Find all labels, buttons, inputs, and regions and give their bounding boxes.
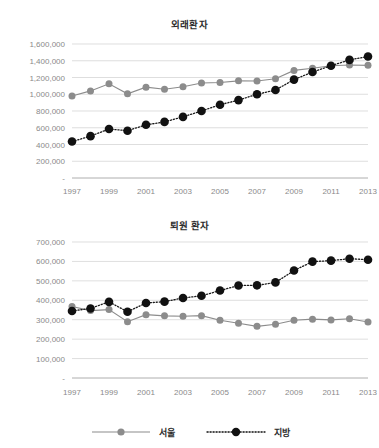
data-point-seoul — [254, 78, 261, 85]
legend-marker-local-icon — [205, 426, 267, 438]
data-point-local — [86, 304, 95, 313]
data-point-local — [197, 107, 206, 116]
data-point-seoul — [143, 311, 150, 318]
data-point-local — [105, 125, 114, 134]
x-tick-label: 2005 — [211, 187, 229, 196]
data-point-local — [160, 297, 169, 306]
legend-label-local: 지방 — [274, 426, 290, 439]
y-tick-label: 600,000 — [36, 124, 65, 133]
data-point-local — [234, 281, 243, 290]
x-tick-label: 2003 — [174, 388, 192, 397]
data-point-local — [308, 257, 317, 266]
data-point-seoul — [346, 315, 353, 322]
y-tick-label: - — [62, 174, 65, 183]
data-point-local — [216, 286, 225, 295]
y-tick-label: 400,000 — [36, 141, 65, 150]
data-point-seoul — [124, 90, 131, 97]
data-point-seoul — [328, 316, 335, 323]
x-tick-label: 2011 — [322, 187, 340, 196]
x-tick-label: 1997 — [63, 388, 81, 397]
legend-marker-seoul-icon — [90, 426, 152, 438]
y-tick-label: 500,000 — [36, 277, 65, 286]
x-tick-label: 2007 — [248, 388, 266, 397]
data-point-seoul — [217, 79, 224, 86]
y-tick-label: 200,000 — [36, 335, 65, 344]
data-point-local — [345, 56, 354, 65]
data-point-local — [364, 52, 373, 61]
data-point-seoul — [291, 67, 298, 74]
legend-label-seoul: 서울 — [159, 426, 175, 439]
y-tick-label: 400,000 — [36, 296, 65, 305]
data-point-seoul — [235, 77, 242, 84]
y-tick-label: 1,000,000 — [29, 90, 65, 99]
chart-1-plot: 1,600,0001,400,0001,200,0001,000,000800,… — [0, 0, 379, 212]
data-point-local — [123, 126, 132, 135]
data-point-local — [253, 281, 262, 290]
data-point-seoul — [124, 318, 131, 325]
y-tick-label: 700,000 — [36, 238, 65, 247]
data-point-local — [253, 90, 262, 99]
y-tick-label: 100,000 — [36, 355, 65, 364]
data-point-local — [216, 100, 225, 109]
y-tick-label: - — [62, 374, 65, 383]
data-point-local — [345, 254, 354, 263]
data-point-local — [234, 96, 243, 105]
data-point-seoul — [309, 316, 316, 323]
x-tick-label: 2009 — [285, 187, 303, 196]
y-tick-label: 600,000 — [36, 257, 65, 266]
data-point-seoul — [365, 319, 372, 326]
x-tick-label: 2005 — [211, 388, 229, 397]
data-point-seoul — [235, 320, 242, 327]
data-point-local — [123, 307, 132, 316]
data-point-local — [142, 121, 151, 130]
legend-entry-seoul[interactable]: 서울 — [90, 426, 175, 439]
x-tick-label: 2007 — [248, 187, 266, 196]
data-point-seoul — [161, 86, 168, 93]
data-point-seoul — [198, 79, 205, 86]
x-tick-label: 2013 — [359, 187, 377, 196]
legend-entry-local[interactable]: 지방 — [205, 426, 290, 439]
data-point-seoul — [143, 84, 150, 91]
data-point-seoul — [180, 313, 187, 320]
data-point-local — [290, 266, 299, 275]
chart-page: 외래환자 1,600,0001,400,0001,200,0001,000,00… — [0, 0, 379, 448]
data-point-seoul — [272, 321, 279, 328]
y-tick-label: 1,200,000 — [29, 74, 65, 83]
data-point-local — [327, 61, 336, 70]
data-point-local — [160, 118, 169, 127]
data-point-local — [327, 256, 336, 265]
data-point-seoul — [180, 83, 187, 90]
x-tick-label: 1999 — [100, 388, 118, 397]
data-point-seoul — [217, 317, 224, 324]
y-tick-label: 200,000 — [36, 157, 65, 166]
data-point-local — [364, 255, 373, 264]
data-point-local — [271, 278, 280, 287]
data-point-seoul — [106, 306, 113, 313]
data-point-seoul — [106, 80, 113, 87]
data-point-seoul — [87, 87, 94, 94]
data-point-seoul — [69, 92, 76, 99]
x-tick-label: 2001 — [137, 187, 155, 196]
data-point-local — [68, 307, 77, 316]
data-point-seoul — [161, 312, 168, 319]
series-line-local — [72, 57, 368, 142]
x-tick-label: 1997 — [63, 187, 81, 196]
data-point-local — [142, 299, 151, 308]
chart-discharged: 퇴원 환자 700,000600,000500,000400,000300,00… — [0, 212, 379, 448]
data-point-local — [308, 68, 317, 77]
data-point-seoul — [272, 75, 279, 82]
data-point-local — [197, 292, 206, 301]
y-tick-label: 1,400,000 — [29, 57, 65, 66]
data-point-local — [290, 75, 299, 84]
x-tick-label: 2009 — [285, 388, 303, 397]
chart-outpatient: 외래환자 1,600,0001,400,0001,200,0001,000,00… — [0, 0, 379, 212]
data-point-local — [105, 298, 114, 307]
y-tick-label: 1,600,000 — [29, 40, 65, 49]
x-tick-label: 2003 — [174, 187, 192, 196]
data-point-local — [271, 86, 280, 95]
data-point-local — [86, 132, 95, 141]
x-tick-label: 2011 — [322, 388, 340, 397]
data-point-local — [179, 113, 188, 122]
chart-legend: 서울 지방 — [0, 422, 379, 442]
data-point-local — [68, 137, 77, 146]
